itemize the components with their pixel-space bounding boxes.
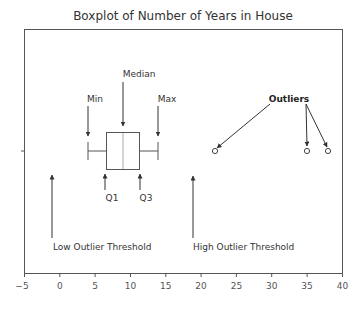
x-tick-label: 0 [57, 281, 63, 291]
x-axis-ticks [25, 274, 343, 278]
low-threshold-label: Low Outlier Threshold [53, 242, 151, 252]
outliers [212, 148, 330, 153]
q1-label: Q1 [106, 193, 119, 203]
outlier-point [325, 148, 330, 153]
median-label: Median [123, 69, 156, 79]
outlier-arrow-1 [217, 104, 270, 148]
x-tick-label: 5 [92, 281, 98, 291]
x-tick-label: 15 [160, 281, 171, 291]
outliers-label: Outliers [269, 94, 309, 104]
x-axis-tick-labels: −5 0 5 10 15 20 25 30 35 40 [15, 281, 348, 291]
boxplot [88, 133, 158, 170]
boxplot-chart: Boxplot of Number of Years in House −5 0… [0, 0, 363, 310]
plot-area [25, 30, 343, 274]
high-threshold-label: High Outlier Threshold [193, 242, 294, 252]
x-tick-label: 25 [231, 281, 242, 291]
q3-label: Q3 [140, 193, 153, 203]
outlier-arrow-3 [306, 104, 327, 147]
x-tick-label: 35 [301, 281, 312, 291]
x-tick-label: 30 [266, 281, 278, 291]
max-label: Max [158, 94, 177, 104]
x-tick-label: 10 [125, 281, 137, 291]
outlier-point [304, 148, 309, 153]
chart-title: Boxplot of Number of Years in House [73, 9, 293, 23]
outlier-point [212, 148, 217, 153]
outlier-arrow-2 [306, 104, 307, 146]
x-tick-label: −5 [15, 281, 28, 291]
x-tick-label: 20 [195, 281, 207, 291]
min-label: Min [87, 94, 103, 104]
x-tick-label: 40 [337, 281, 349, 291]
